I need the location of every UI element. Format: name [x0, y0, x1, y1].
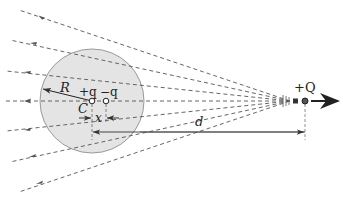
label-d: d: [195, 114, 203, 129]
label-minus-q: −q: [100, 85, 118, 99]
charge-plus-Q: [302, 98, 308, 104]
arrowhead-icon: [30, 42, 37, 45]
arrowhead-icon: [24, 99, 31, 104]
label-plus-Q: +Q: [294, 80, 316, 95]
arrowhead-icon: [24, 128, 31, 131]
diagram-svg: R +q −q C x d +Q: [0, 0, 343, 201]
label-x: x: [95, 111, 102, 125]
label-C: C: [78, 101, 88, 116]
label-R: R: [59, 80, 70, 95]
label-plus-q: +q: [79, 85, 97, 99]
arrowhead-icon: [24, 71, 31, 74]
charge-minus-q: [103, 98, 109, 104]
arrowhead-icon: [29, 154, 36, 157]
charge-plus-q: [89, 98, 95, 104]
arrowhead-icon: [36, 181, 43, 185]
diagram-canvas: R +q −q C x d +Q: [0, 0, 343, 201]
arrowhead-icon: [37, 15, 45, 20]
field-concentration: [283, 95, 298, 107]
